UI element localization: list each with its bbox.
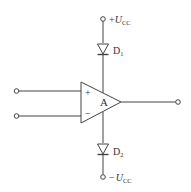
- opamp-minus-sign: −: [85, 108, 91, 119]
- terminal-output: [176, 100, 181, 105]
- diode-d2-label: D2: [113, 146, 123, 158]
- terminal-inverting-input: [14, 114, 19, 119]
- opamp-plus-sign: +: [85, 87, 91, 98]
- diode-d1-label: D1: [113, 45, 123, 57]
- opamp-label: A: [100, 96, 108, 108]
- terminal-negative-supply: [101, 175, 106, 180]
- circuit-diagram: + − A +UCC D1 D2 −UCC: [0, 0, 191, 192]
- diode-d2-icon: [98, 144, 109, 155]
- schematic: + − A +UCC D1 D2 −UCC: [0, 0, 191, 192]
- terminal-positive-supply: [101, 17, 106, 22]
- diode-d1-icon: [98, 44, 109, 55]
- positive-supply-label: +UCC: [109, 14, 131, 26]
- terminal-noninverting-input: [14, 89, 19, 94]
- negative-supply-label: −UCC: [109, 172, 132, 184]
